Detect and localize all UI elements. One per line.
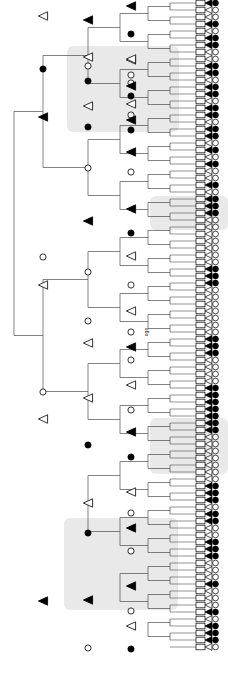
tip-circle-88-open (213, 616, 219, 622)
tip-box-86 (196, 602, 205, 608)
tip-circle-44-open (213, 308, 219, 314)
tip-circle-10-closed (213, 70, 219, 76)
node-13-circle_closed (85, 78, 91, 84)
tip-circle-32-open (213, 224, 219, 230)
tip-box-1 (196, 7, 205, 13)
node-50-circle_closed (85, 530, 91, 536)
node-57-circle_open (40, 389, 46, 395)
node-29-circle_open (128, 282, 134, 288)
tip-circle-70-closed (213, 490, 219, 496)
node-52-circle_open (128, 608, 134, 614)
tip-box-41 (196, 287, 205, 293)
tip-circle-18-closed (213, 126, 219, 132)
tip-box-3 (196, 21, 205, 27)
tip-box-46 (196, 322, 205, 328)
tip-circle-60-closed (213, 420, 219, 426)
tip-box-77 (196, 539, 205, 545)
tip-circle-69-closed (213, 483, 219, 489)
tip-circle-36-open (213, 252, 219, 258)
tip-circle-79-closed (213, 553, 219, 559)
tip-box-28 (196, 196, 205, 202)
tip-circle-2-open (213, 14, 219, 20)
tip-box-68 (196, 476, 205, 482)
tip-circle-11-open (213, 77, 219, 83)
tip-circle-90-closed (213, 630, 219, 636)
tip-box-15 (196, 105, 205, 111)
tip-circle-67-open (213, 469, 219, 475)
tip-box-79 (196, 553, 205, 559)
tip-circle-80-open (213, 560, 219, 566)
tip-box-67 (196, 469, 205, 475)
tip-box-27 (196, 189, 205, 195)
tip-circle-31-open (213, 217, 219, 223)
tip-circle-28-closed (213, 196, 219, 202)
tip-circle-6-closed (213, 42, 219, 48)
tip-box-76 (196, 532, 205, 538)
tip-box-37 (196, 259, 205, 265)
tip-circle-83-closed (213, 581, 219, 587)
tip-box-52 (196, 364, 205, 370)
tip-box-30 (196, 210, 205, 216)
node-20-circle_closed (85, 124, 91, 130)
tip-box-66 (196, 462, 205, 468)
tip-circle-72-open (213, 504, 219, 510)
tip-box-14 (196, 98, 205, 104)
tip-box-82 (196, 574, 205, 580)
annotation-label-group: ogo (143, 328, 149, 337)
tip-circle-76-open (213, 532, 219, 538)
tip-box-58 (196, 406, 205, 412)
tip-box-64 (196, 448, 205, 454)
tip-box-12 (196, 84, 205, 90)
tip-box-65 (196, 455, 205, 461)
node-40-circle_open (128, 407, 134, 413)
node-6-circle_open (85, 63, 91, 69)
tip-box-0 (196, 0, 205, 6)
tip-circle-14-open (213, 98, 219, 104)
tip-circle-66-open (213, 462, 219, 468)
tip-box-48 (196, 336, 205, 342)
tip-circle-45-open (213, 315, 219, 321)
node-5-circle_open (128, 72, 134, 78)
tip-box-62 (196, 434, 205, 440)
tip-box-57 (196, 399, 205, 405)
tip-box-72 (196, 504, 205, 510)
tip-box-55 (196, 385, 205, 391)
tip-circle-63-open (213, 441, 219, 447)
tip-box-32 (196, 224, 205, 230)
tip-box-10 (196, 70, 205, 76)
tip-circle-55-closed (213, 385, 219, 391)
tip-circle-82-open (213, 574, 219, 580)
tip-circle-89-closed (213, 623, 219, 629)
tip-box-44 (196, 308, 205, 314)
tip-box-69 (196, 483, 205, 489)
tip-circle-52-open (213, 364, 219, 370)
node-55-circle_closed (128, 646, 134, 652)
tip-box-40 (196, 280, 205, 286)
tip-circle-35-open (213, 245, 219, 251)
tip-box-50 (196, 350, 205, 356)
tip-box-49 (196, 343, 205, 349)
tip-box-90 (196, 630, 205, 636)
tip-box-9 (196, 63, 205, 69)
tip-circle-7-open (213, 49, 219, 55)
tip-circle-86-open (213, 602, 219, 608)
tip-circle-17-open (213, 119, 219, 125)
tip-box-42 (196, 294, 205, 300)
tip-box-38 (196, 266, 205, 272)
tip-circle-47-open (213, 329, 219, 335)
tip-circle-42-open (213, 294, 219, 300)
tip-circle-26-closed (213, 182, 219, 188)
tip-circle-59-closed (213, 413, 219, 419)
tip-box-61 (196, 427, 205, 433)
tip-box-31 (196, 217, 205, 223)
tip-circle-50-closed (213, 350, 219, 356)
tip-box-80 (196, 560, 205, 566)
tip-circle-87-closed (213, 609, 219, 615)
tip-circle-43-open (213, 301, 219, 307)
tip-box-24 (196, 168, 205, 174)
tip-box-20 (196, 140, 205, 146)
tip-circle-91-closed (213, 637, 219, 643)
tip-circle-25-open (213, 175, 219, 181)
tip-box-21 (196, 147, 205, 153)
tip-box-34 (196, 238, 205, 244)
